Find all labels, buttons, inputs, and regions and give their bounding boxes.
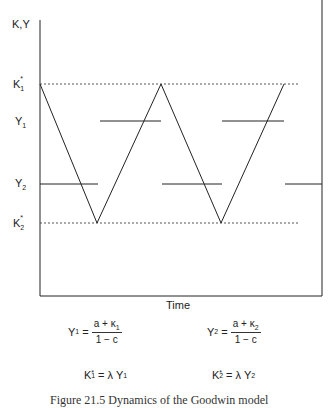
x-axis-label: Time [166,299,190,311]
equation-k1: K1*= λ Y1 [84,369,127,381]
k1-star-label: K1* [13,77,27,92]
k2-star-label: K2* [13,216,27,231]
equation-y1: Y1 = a + κ11 − c [68,318,122,345]
y2-label: Y2 [15,177,26,191]
y1-label: Y1 [15,115,26,129]
equation-k2: K2*= λ Y2 [212,369,255,381]
y-axis-label: K,Y [12,18,30,30]
figure-caption: Figure 21.5 Dynamics of the Goodwin mode… [50,393,268,408]
equation-y2: Y2 = a + κ21 − c [207,318,261,345]
capital-path [40,84,284,223]
